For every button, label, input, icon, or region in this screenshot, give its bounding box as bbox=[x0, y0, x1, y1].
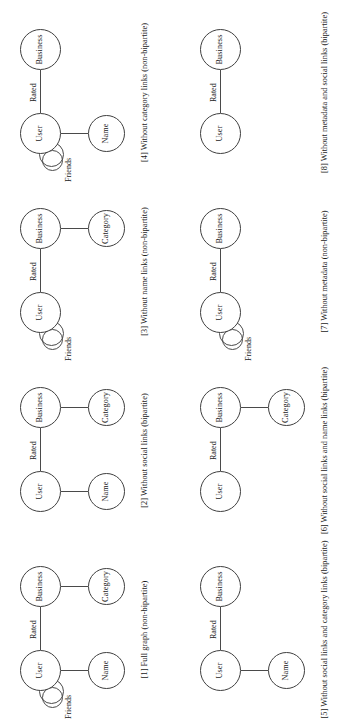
panel-7-diagram: RatedFriendsUserBusiness bbox=[180, 182, 317, 361]
panel-5-edge-rated bbox=[220, 607, 221, 650]
panel-2-caption: [2] Without social links (bipartite) bbox=[139, 361, 150, 540]
panel-5-edge-rated-label: Rated bbox=[210, 619, 218, 640]
panel-6-diagram: RatedUserBusinessCategory bbox=[180, 361, 317, 540]
panel-2-edge-rated-label: Rated bbox=[30, 440, 38, 461]
panel-1-node-user-label: User bbox=[36, 663, 44, 679]
panel-3: RatedFriendsUserBusinessCategory[3] With… bbox=[0, 182, 180, 361]
panel-5-caption: [5] Without social links and category li… bbox=[319, 540, 330, 719]
panel-2-node-category: Category bbox=[88, 389, 125, 426]
panel-4-edge-rated-label: Rated bbox=[30, 82, 38, 103]
panel-7-caption: [7] Without metadata (non-bipartite) bbox=[319, 182, 330, 361]
panel-4-node-business-label: Business bbox=[36, 35, 44, 65]
panel-5-node-name-label: Name bbox=[282, 661, 290, 681]
panel-6: RatedUserBusinessCategory[6] Without soc… bbox=[180, 361, 360, 540]
panel-2-edge-name-link bbox=[61, 491, 88, 492]
panel-6-node-business-label: Business bbox=[216, 393, 224, 423]
panel-5-node-name: Name bbox=[268, 652, 305, 689]
panel-7-edge-rated bbox=[220, 249, 221, 292]
panel-8-edge-rated-label: Rated bbox=[210, 82, 218, 103]
panel-4-node-business: Business bbox=[20, 29, 61, 70]
panel-1-node-name: Name bbox=[88, 652, 125, 689]
panel-1-node-business: Business bbox=[20, 566, 61, 607]
panel-3-node-business: Business bbox=[20, 208, 61, 249]
panel-8-caption: [8] Without metadata and social links (b… bbox=[319, 3, 330, 182]
panel-3-edge-category-link bbox=[61, 228, 88, 229]
panel-4-edge-name-link bbox=[61, 133, 88, 134]
panel-2-node-name: Name bbox=[88, 473, 125, 510]
panel-3-node-category: Category bbox=[88, 210, 125, 247]
panel-1: RatedFriendsUserBusinessNameCategory[1] … bbox=[0, 540, 180, 719]
panel-3-node-user-label: User bbox=[36, 305, 44, 321]
panel-5-node-business-label: Business bbox=[216, 572, 224, 602]
panel-2-node-user-label: User bbox=[36, 484, 44, 500]
panel-8: RatedUserBusiness[8] Without metadata an… bbox=[180, 3, 360, 182]
panel-7-node-business: Business bbox=[200, 208, 241, 249]
panel-4: RatedFriendsUserBusinessName[4] Without … bbox=[0, 3, 180, 182]
panel-4-selfloop-friends-label: Friends bbox=[65, 158, 73, 182]
panel-6-node-user: User bbox=[200, 471, 241, 512]
panel-6-node-category: Category bbox=[268, 389, 305, 426]
panel-1-edge-name-link bbox=[61, 670, 88, 671]
panel-3-caption: [3] Without name links (non-bipartite) bbox=[139, 182, 150, 361]
panel-6-edge-category-link bbox=[241, 407, 268, 408]
panel-6-node-category-label: Category bbox=[282, 392, 290, 423]
panel-6-edge-rated bbox=[220, 428, 221, 471]
panel-6-edge-rated-label: Rated bbox=[210, 440, 218, 461]
panel-1-selfloop-friends-label: Friends bbox=[65, 695, 73, 719]
panel-1-edge-rated-label: Rated bbox=[30, 619, 38, 640]
panel-1-diagram: RatedFriendsUserBusinessNameCategory bbox=[0, 540, 137, 719]
panel-2-node-business-label: Business bbox=[36, 393, 44, 423]
panel-1-edge-category-link bbox=[61, 586, 88, 587]
panel-5-edge-name-link bbox=[241, 670, 268, 671]
panel-5-node-user-label: User bbox=[216, 663, 224, 679]
panel-8-diagram: RatedUserBusiness bbox=[180, 3, 317, 182]
panel-4-diagram: RatedFriendsUserBusinessName bbox=[0, 3, 137, 182]
panel-2-node-category-label: Category bbox=[102, 392, 110, 423]
panel-3-node-category-label: Category bbox=[102, 213, 110, 244]
panel-3-diagram: RatedFriendsUserBusinessCategory bbox=[0, 182, 137, 361]
panel-5-node-user: User bbox=[200, 650, 241, 691]
panel-5-node-business: Business bbox=[200, 566, 241, 607]
panel-8-edge-rated bbox=[220, 70, 221, 113]
panel-4-node-name: Name bbox=[88, 115, 125, 152]
panel-7-node-business-label: Business bbox=[216, 214, 224, 244]
panel-1-node-business-label: Business bbox=[36, 572, 44, 602]
panel-7: RatedFriendsUserBusiness[7] Without meta… bbox=[180, 182, 360, 361]
panel-1-node-user: User bbox=[20, 650, 61, 691]
panel-1-edge-rated bbox=[40, 607, 41, 650]
panel-2-diagram: RatedUserBusinessNameCategory bbox=[0, 361, 137, 540]
panel-3-edge-rated-label: Rated bbox=[30, 261, 38, 282]
figure-canvas: RatedFriendsUserBusinessNameCategory[1] … bbox=[0, 0, 360, 719]
panel-7-edge-rated-label: Rated bbox=[210, 261, 218, 282]
panel-4-node-user: User bbox=[20, 113, 61, 154]
panel-7-node-user-label: User bbox=[216, 305, 224, 321]
panel-5-diagram: RatedUserBusinessName bbox=[180, 540, 317, 719]
panel-7-node-user: User bbox=[200, 292, 241, 333]
panel-4-node-name-label: Name bbox=[102, 124, 110, 144]
panel-2-node-name-label: Name bbox=[102, 482, 110, 502]
panel-3-node-user: User bbox=[20, 292, 61, 333]
panel-1-node-category-label: Category bbox=[102, 571, 110, 602]
panel-8-node-user: User bbox=[200, 113, 241, 154]
panel-8-node-business: Business bbox=[200, 29, 241, 70]
panel-2-node-user: User bbox=[20, 471, 61, 512]
panel-1-node-category: Category bbox=[88, 568, 125, 605]
panel-6-node-business: Business bbox=[200, 387, 241, 428]
panel-6-caption: [6] Without social links and name links … bbox=[319, 361, 330, 540]
panel-1-node-name-label: Name bbox=[102, 661, 110, 681]
panel-1-caption: [1] Full graph (non-bipartite) bbox=[139, 540, 150, 719]
panel-3-selfloop-friends-label: Friends bbox=[65, 337, 73, 361]
panel-3-edge-rated bbox=[40, 249, 41, 292]
panel-grid: RatedFriendsUserBusinessNameCategory[1] … bbox=[0, 0, 360, 719]
panel-4-node-user-label: User bbox=[36, 126, 44, 142]
panel-5: RatedUserBusinessName[5] Without social … bbox=[180, 540, 360, 719]
panel-2-edge-rated bbox=[40, 428, 41, 471]
panel-7-selfloop-friends-label: Friends bbox=[245, 337, 253, 361]
panel-2: RatedUserBusinessNameCategory[2] Without… bbox=[0, 361, 180, 540]
panel-8-node-business-label: Business bbox=[216, 35, 224, 65]
panel-4-caption: [4] Without category links (non-bipartit… bbox=[139, 3, 150, 182]
panel-8-node-user-label: User bbox=[216, 126, 224, 142]
panel-6-node-user-label: User bbox=[216, 484, 224, 500]
panel-2-node-business: Business bbox=[20, 387, 61, 428]
panel-4-edge-rated bbox=[40, 70, 41, 113]
